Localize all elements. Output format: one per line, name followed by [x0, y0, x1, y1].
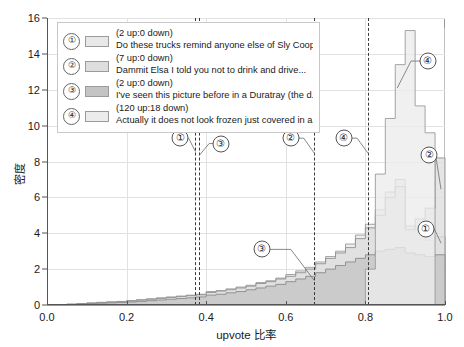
- annotation-3-left: ③: [212, 135, 229, 152]
- legend-color-swatch: [85, 86, 109, 97]
- legend-item-comment: I've seen this picture before in a Durat…: [116, 90, 313, 102]
- legend-color-swatch: [85, 61, 109, 72]
- legend-item-votes: (2 up:0 down): [116, 28, 313, 40]
- legend-item-marker: ③: [63, 83, 80, 100]
- annotation-4-peak: ④: [419, 53, 436, 70]
- x-tick-label: 0.4: [199, 305, 214, 323]
- legend-item-comment: Dammit Elsa I told you not to drink and …: [116, 65, 313, 77]
- legend-item-text: (120 up:18 down)Actually it does not loo…: [116, 103, 313, 126]
- annotation-1-right: ①: [417, 220, 434, 237]
- x-tick-mark: [365, 301, 366, 305]
- x-tick-label: 1.0: [437, 305, 452, 323]
- y-axis-line: [47, 18, 48, 305]
- legend-item-marker: ④: [63, 108, 80, 125]
- legend-item-text: (2 up:0 down)Do these trucks remind anyo…: [116, 28, 313, 51]
- legend-color-swatch: [85, 111, 109, 122]
- legend-color-swatch: [85, 36, 109, 47]
- annotation-4-mid: ④: [335, 130, 352, 147]
- legend-item-votes: (120 up:18 down): [116, 103, 313, 115]
- x-tick-label: 0.0: [39, 305, 54, 323]
- legend-item[interactable]: ②(7 up:0 down)Dammit Elsa I told you not…: [63, 53, 313, 76]
- x-tick-mark: [206, 301, 207, 305]
- legend-item[interactable]: ①(2 up:0 down)Do these trucks remind any…: [63, 28, 313, 51]
- annotation-3-low: ③: [253, 241, 270, 258]
- x-tick-label: 0.6: [278, 305, 293, 323]
- legend-item[interactable]: ③(2 up:0 down)I've seen this picture bef…: [63, 78, 313, 101]
- x-tick-mark: [47, 301, 48, 305]
- vline-d: [368, 18, 369, 305]
- y-tick-mark: [42, 89, 47, 90]
- legend-item-comment: Actually it does not look frozen just co…: [116, 115, 313, 127]
- x-tick-mark: [445, 301, 446, 305]
- y-tick-mark: [42, 18, 47, 19]
- x-tick-label: 0.8: [358, 305, 373, 323]
- legend-item-text: (7 up:0 down)Dammit Elsa I told you not …: [116, 53, 313, 76]
- legend-item-votes: (2 up:0 down): [116, 78, 313, 90]
- annotation-2-right: ②: [421, 147, 438, 164]
- chart-figure: 密度 upvote 比率 ①③②④③④②① 0246810121416 0.00…: [0, 0, 464, 347]
- legend-item-text: (2 up:0 down)I've seen this picture befo…: [116, 78, 313, 101]
- x-axis-label: upvote 比率: [47, 326, 445, 342]
- y-axis-label: 密度: [11, 163, 27, 185]
- legend-item[interactable]: ④(120 up:18 down)Actually it does not lo…: [63, 103, 313, 126]
- x-tick-label: 0.2: [119, 305, 134, 323]
- x-axis-line: [47, 304, 445, 305]
- x-tick-mark: [127, 301, 128, 305]
- legend[interactable]: ①(2 up:0 down)Do these trucks remind any…: [57, 22, 320, 133]
- y-tick-mark: [42, 197, 47, 198]
- y-tick-mark: [42, 53, 47, 54]
- y-tick-mark: [42, 269, 47, 270]
- y-tick-mark: [42, 125, 47, 126]
- legend-item-marker: ②: [63, 58, 80, 75]
- legend-item-votes: (7 up:0 down): [116, 53, 313, 65]
- x-tick-mark: [286, 301, 287, 305]
- y-tick-mark: [42, 233, 47, 234]
- y-tick-mark: [42, 161, 47, 162]
- legend-item-marker: ①: [63, 33, 80, 50]
- legend-item-comment: Do these trucks remind anyone else of Sl…: [116, 40, 313, 52]
